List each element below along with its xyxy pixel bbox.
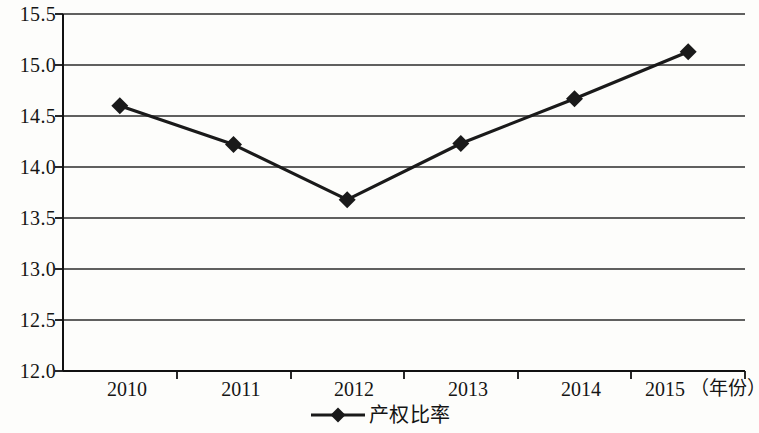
chart-figure: 15.5 15.0 14.5 14.0 13.5 13.0 12.5 12.0	[0, 0, 759, 433]
data-point-2012	[339, 191, 356, 208]
legend-label-equity-ratio: 产权比率	[369, 404, 451, 426]
legend-diamond-marker-icon	[309, 406, 367, 424]
plot-area	[0, 0, 759, 433]
x-axis-label-2012: 2012	[297, 378, 411, 400]
series-line-equity-ratio	[120, 52, 688, 200]
data-point-2014	[566, 90, 583, 107]
data-point-2013	[452, 135, 469, 152]
x-axis-label-2014: 2014	[524, 378, 638, 400]
data-point-2010	[111, 97, 128, 114]
data-point-2011	[225, 136, 242, 153]
series-markers	[111, 43, 696, 208]
x-axis-label-2011: 2011	[184, 378, 298, 400]
chart-legend: 产权比率	[0, 404, 759, 426]
x-axis-label-2010: 2010	[70, 378, 184, 400]
x-axis-unit-label: （年份）	[690, 378, 759, 400]
x-axis-label-2013: 2013	[411, 378, 525, 400]
y-axis-ticks	[55, 14, 63, 371]
gridlines	[63, 14, 745, 320]
data-point-2015	[680, 43, 697, 60]
